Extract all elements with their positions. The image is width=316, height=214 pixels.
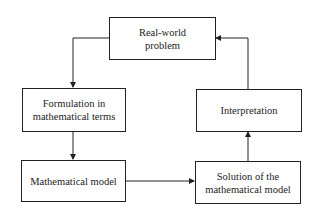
edge-interpretation-to-realworld [216, 38, 248, 89]
node-label-line: mathematical model [205, 183, 290, 196]
node-label-line: Real-world [139, 26, 186, 39]
node-interpretation: Interpretation [196, 89, 302, 132]
node-label-line: Solution of the [205, 170, 290, 183]
node-label-line: problem [139, 39, 186, 52]
node-label-line: Mathematical model [30, 175, 117, 188]
node-solution: Solution of themathematical model [195, 161, 301, 204]
node-label-line: Interpretation [220, 104, 277, 117]
node-label-line: Formulation in [33, 97, 116, 110]
node-real-world-problem: Real-worldproblem [109, 17, 216, 60]
node-mathematical-model: Mathematical model [21, 160, 126, 202]
node-label-line: mathematical terms [33, 110, 116, 123]
edge-realworld-to-formulation [73, 38, 109, 87]
node-formulation: Formulation inmathematical terms [22, 88, 126, 132]
